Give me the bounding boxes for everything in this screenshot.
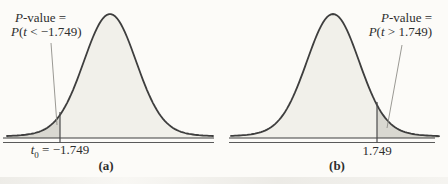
annotation-line1: P-value = bbox=[15, 11, 82, 25]
critical-value-label-right: 1.749 bbox=[362, 143, 391, 159]
pvalue-annotation-left: P-value = P(t < −1.749) bbox=[11, 11, 82, 39]
annotation-line2: P(t > 1.749) bbox=[369, 25, 432, 39]
annotation-line2: P(t < −1.749) bbox=[11, 25, 82, 39]
panel-caption-b: (b) bbox=[329, 158, 345, 174]
critical-value-label-left: t0 = −1.749 bbox=[31, 142, 90, 158]
pvalue-annotation-right: P-value = P(t > 1.749) bbox=[369, 11, 432, 39]
annotation-line1: P-value = bbox=[369, 11, 432, 25]
t-distribution-pvalue-figure: P-value = P(t < −1.749) P-value = P(t > … bbox=[0, 0, 448, 184]
panel-caption-a: (a) bbox=[98, 158, 113, 174]
